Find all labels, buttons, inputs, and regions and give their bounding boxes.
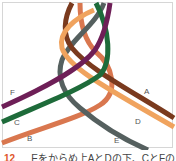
label-b: B bbox=[27, 134, 32, 143]
braid-diagram bbox=[0, 0, 176, 150]
label-c: C bbox=[14, 118, 20, 127]
label-e: E bbox=[114, 136, 119, 145]
step-number: 12 bbox=[4, 153, 15, 161]
step-caption: 12Eをからめ上AとDの下、CとFの上、Bの下を bbox=[4, 153, 176, 161]
label-f: F bbox=[10, 88, 15, 97]
step-text: Eをからめ上AとDの下、CとFの上、Bの下を bbox=[31, 153, 176, 161]
label-a: A bbox=[144, 87, 149, 96]
label-d: D bbox=[135, 117, 141, 126]
